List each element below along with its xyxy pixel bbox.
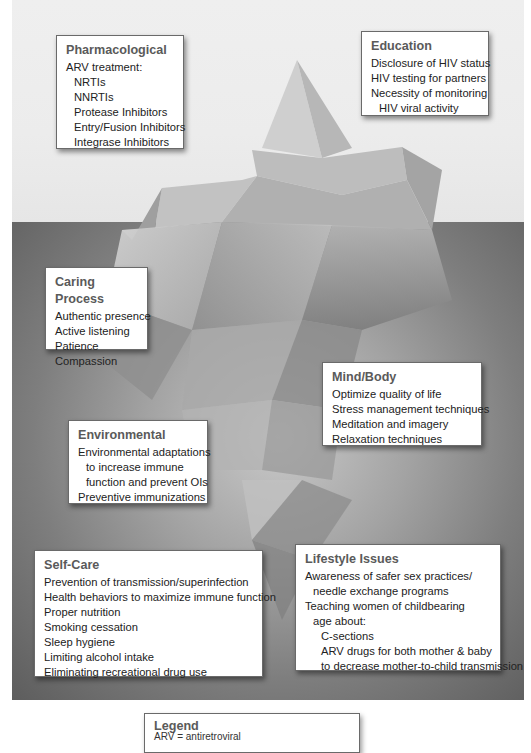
box-line: Prevention of transmission/superinfectio…: [44, 575, 253, 590]
mind-body-box: Mind/Body Optimize quality of life Stres…: [322, 362, 482, 446]
box-line: Awareness of safer sex practices/: [305, 569, 491, 584]
box-title: Caring Process: [55, 274, 138, 308]
box-line: to decrease mother-to-child transmission: [305, 659, 491, 674]
box-line: Stress management techniques: [332, 402, 472, 417]
box-line: Limiting alcohol intake: [44, 650, 253, 665]
box-line: Necessity of monitoring: [371, 86, 479, 101]
box-line: Active listening: [55, 324, 138, 339]
box-line: Meditation and imagery: [332, 417, 472, 432]
box-line: Teaching women of childbearing: [305, 599, 491, 614]
box-line: Sleep hygiene: [44, 635, 253, 650]
box-line: Authentic presence: [55, 309, 138, 324]
box-title: Self-Care: [44, 557, 253, 574]
caring-process-box: Caring Process Authentic presence Active…: [45, 267, 148, 350]
box-line: Integrase Inhibitors: [66, 135, 174, 150]
box-line: needle exchange programs: [305, 584, 491, 599]
box-line: Patience: [55, 339, 138, 354]
legend-box: Legend ARV = antiretroviral: [144, 713, 360, 753]
box-line: Health behaviors to maximize immune func…: [44, 590, 253, 605]
box-line: Entry/Fusion Inhibitors: [66, 120, 174, 135]
box-line: C-sections: [305, 629, 491, 644]
education-box: Education Disclosure of HIV status HIV t…: [361, 31, 489, 116]
self-care-box: Self-Care Prevention of transmission/sup…: [34, 550, 263, 677]
box-title: Pharmacological: [66, 42, 174, 59]
box-line: Preventive immunizations: [78, 490, 198, 505]
box-line: NRTIs: [66, 75, 174, 90]
legend-entry: ARV = antiretroviral: [154, 731, 350, 742]
box-line: to increase immune: [78, 460, 198, 475]
box-title: Education: [371, 38, 479, 55]
box-line: Protease Inhibitors: [66, 105, 174, 120]
box-line: HIV viral activity: [371, 101, 479, 116]
box-line: function and prevent OIs: [78, 475, 198, 490]
box-title: Environmental: [78, 427, 198, 444]
box-line: Environmental adaptations: [78, 445, 198, 460]
lifestyle-issues-box: Lifestyle Issues Awareness of safer sex …: [295, 544, 501, 671]
box-line: Proper nutrition: [44, 605, 253, 620]
pharmacological-box: Pharmacological ARV treatment: NRTIs NNR…: [56, 35, 184, 149]
box-line: ARV drugs for both mother & baby: [305, 644, 491, 659]
box-line: age about:: [305, 614, 491, 629]
box-line: Optimize quality of life: [332, 387, 472, 402]
box-line: HIV testing for partners: [371, 71, 479, 86]
box-title: Mind/Body: [332, 369, 472, 386]
iceberg-panel: Pharmacological ARV treatment: NRTIs NNR…: [12, 0, 524, 700]
box-line: Compassion: [55, 354, 138, 369]
box-line: Eliminating recreational drug use: [44, 665, 253, 680]
box-line: Relaxation techniques: [332, 432, 472, 447]
box-line: NNRTIs: [66, 90, 174, 105]
box-line: ARV treatment:: [66, 60, 174, 75]
environmental-box: Environmental Environmental adaptations …: [68, 420, 208, 504]
box-title: Lifestyle Issues: [305, 551, 491, 568]
box-line: Disclosure of HIV status: [371, 56, 479, 71]
box-line: Smoking cessation: [44, 620, 253, 635]
